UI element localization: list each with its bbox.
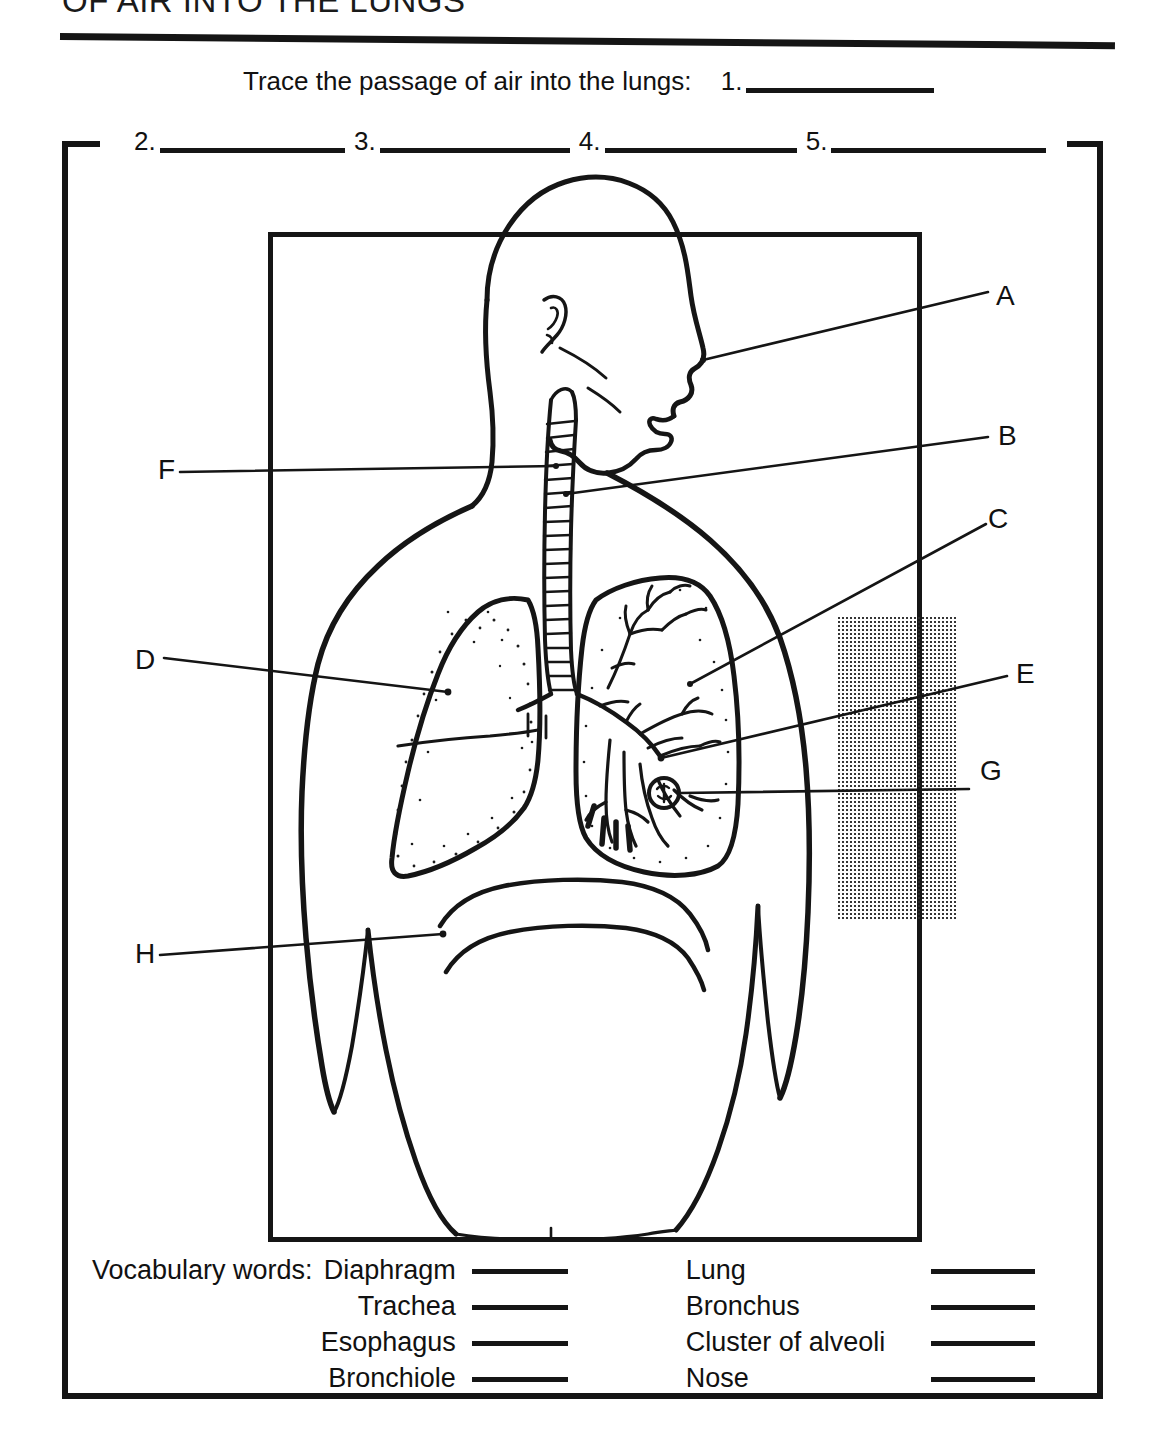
vocabulary-blank-cluster-of-alveoli[interactable] (885, 1324, 1035, 1360)
trace-blank-2[interactable] (160, 148, 345, 153)
vocabulary-word-trachea: Trachea (321, 1288, 472, 1324)
vocabulary-blank-lung[interactable] (885, 1252, 1035, 1288)
label-letter-f: F (158, 456, 175, 484)
vocabulary-row: Bronchiole Nose (92, 1360, 1035, 1396)
vocabulary-blank-diaphragm[interactable] (472, 1252, 592, 1288)
vocabulary-blank-trachea[interactable] (472, 1288, 592, 1324)
trace-number-2: 2. (134, 126, 156, 156)
trace-blank-5[interactable] (831, 148, 1046, 153)
label-letter-a: A (996, 282, 1015, 310)
vocabulary-blank-bronchus[interactable] (885, 1288, 1035, 1324)
vocabulary-word-cluster-of-alveoli: Cluster of alveoli (592, 1324, 886, 1360)
vocabulary-word-lung: Lung (592, 1252, 886, 1288)
vocabulary-blank-esophagus[interactable] (472, 1324, 592, 1360)
label-letter-d: D (135, 646, 155, 674)
vocabulary-heading-spacer (92, 1324, 321, 1360)
trace-prompt-text: Trace the passage of air into the lungs: (243, 66, 692, 96)
label-letter-h: H (135, 940, 155, 968)
trace-number-4: 4. (579, 126, 601, 156)
vocabulary-word-nose: Nose (592, 1360, 886, 1396)
trace-blank-4[interactable] (605, 148, 797, 153)
halftone-shading-artifact (838, 617, 956, 921)
trace-blanks-row: 2. 3. 4. 5. (134, 126, 1048, 157)
vocabulary-word-bronchiole: Bronchiole (321, 1360, 472, 1396)
vocabulary-blank-bronchiole[interactable] (472, 1360, 592, 1396)
vocabulary-row: Trachea Bronchus (92, 1288, 1035, 1324)
vocabulary-row: Vocabulary words: Diaphragm Lung (92, 1252, 1035, 1288)
trace-number-1: 1. (721, 66, 743, 96)
vocabulary-word-bronchus: Bronchus (592, 1288, 886, 1324)
vocabulary-heading: Vocabulary words: (92, 1252, 321, 1288)
vocabulary-heading-spacer (92, 1288, 321, 1324)
vocabulary-heading-spacer (92, 1360, 321, 1396)
vocabulary-blank-nose[interactable] (885, 1360, 1035, 1396)
vocabulary-word-esophagus: Esophagus (321, 1324, 472, 1360)
outer-frame-left-edge (62, 141, 68, 1399)
trace-number-3: 3. (354, 126, 376, 156)
label-letter-c: C (988, 505, 1008, 533)
trace-instruction-row: Trace the passage of air into the lungs:… (243, 66, 934, 97)
label-letter-g: G (980, 757, 1002, 785)
trace-number-5: 5. (806, 126, 828, 156)
vocabulary-word-diaphragm: Diaphragm (321, 1252, 472, 1288)
trace-blank-3[interactable] (380, 148, 570, 153)
label-letter-e: E (1016, 660, 1035, 688)
trace-blank-1[interactable] (746, 88, 934, 93)
vocabulary-table: Vocabulary words: Diaphragm Lung Trachea… (92, 1252, 1035, 1396)
figure-border-box (268, 232, 922, 1242)
outer-frame-right-edge (1097, 141, 1103, 1399)
title-divider-rule (60, 33, 1115, 49)
page-title: OF AIR INTO THE LUNGS (62, 0, 466, 20)
label-letter-b: B (998, 422, 1017, 450)
vocabulary-section: Vocabulary words: Diaphragm Lung Trachea… (92, 1252, 1092, 1396)
vocabulary-row: Esophagus Cluster of alveoli (92, 1324, 1035, 1360)
